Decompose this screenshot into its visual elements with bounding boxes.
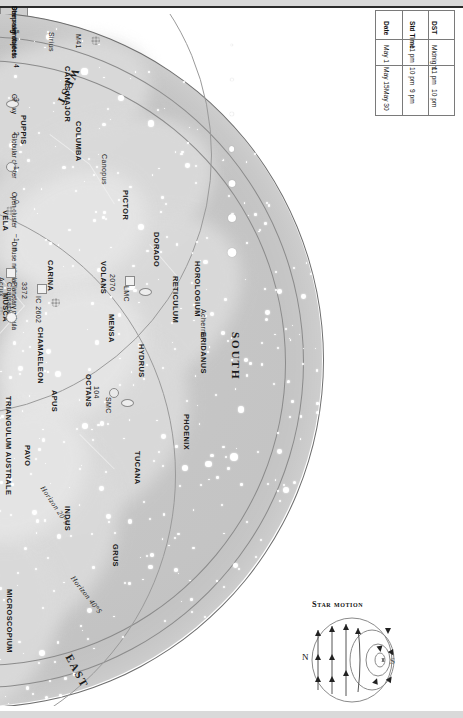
star <box>119 384 121 386</box>
deep-sky-object-label: SMC <box>105 397 112 414</box>
star <box>56 28 57 29</box>
star <box>108 521 109 522</box>
star <box>81 68 87 74</box>
star-motion-diagram: Star motion N S <box>300 600 400 712</box>
time-table-cell: 11 pm <box>431 67 438 85</box>
time-table-divider <box>376 65 454 66</box>
constellation-label: DORADO <box>152 232 161 267</box>
star <box>291 400 294 403</box>
magnitude-value: −1 <box>13 234 20 242</box>
star <box>191 611 193 613</box>
magnitude-dot <box>229 146 235 152</box>
star <box>277 490 279 492</box>
galaxy-object-icon <box>121 399 134 407</box>
star <box>158 451 160 453</box>
constellation-label: COLUMBA <box>74 121 83 162</box>
star <box>277 449 282 454</box>
star <box>49 242 52 245</box>
star <box>18 366 23 371</box>
star <box>44 47 45 48</box>
star <box>189 580 190 581</box>
star <box>244 358 248 362</box>
constellation-label: TRIANGULUM AUSTRALE <box>4 396 13 495</box>
star <box>274 334 275 335</box>
open-cluster-icon <box>6 206 15 215</box>
star <box>39 650 45 656</box>
star <box>55 371 61 377</box>
star <box>246 374 249 377</box>
time-table-cell: May 30 <box>383 89 390 111</box>
star <box>277 347 279 349</box>
constellation-label: CHAMAELEON <box>36 327 45 384</box>
star <box>206 237 208 239</box>
star <box>176 243 179 246</box>
star <box>92 439 94 441</box>
star <box>41 188 42 189</box>
time-table-cell: May 15 <box>383 67 390 89</box>
star <box>92 566 95 569</box>
time-table-header: Date <box>383 21 390 35</box>
star <box>19 373 21 375</box>
magnitude-value: 0 <box>13 200 20 204</box>
magnitude-dot <box>228 180 235 187</box>
star <box>192 547 195 550</box>
star <box>106 514 111 519</box>
star <box>42 607 44 609</box>
star <box>236 448 237 449</box>
star <box>32 693 34 695</box>
time-table-cell: May 1 <box>383 45 390 63</box>
constellation-label: OCTANS <box>84 374 93 407</box>
star <box>277 289 282 294</box>
constellation-label: CARINA <box>46 260 55 291</box>
star <box>223 533 224 534</box>
star <box>238 568 239 569</box>
star <box>162 538 163 539</box>
star <box>59 694 62 697</box>
star-name-label: Canopus <box>101 154 108 185</box>
star <box>98 154 99 155</box>
star <box>300 415 303 418</box>
star <box>193 320 194 321</box>
star <box>203 260 208 265</box>
star <box>289 416 290 417</box>
time-table-cell: 10 pm <box>431 89 438 107</box>
star <box>264 288 265 289</box>
star <box>289 338 290 339</box>
star <box>79 468 81 470</box>
star <box>187 142 188 143</box>
star <box>93 648 94 649</box>
planetary-nebula-icon <box>6 312 17 323</box>
open-object-icon <box>91 36 100 45</box>
star <box>246 242 247 243</box>
star <box>110 119 111 120</box>
star <box>29 395 30 396</box>
star <box>19 38 20 39</box>
star-motion-svg <box>300 606 400 718</box>
star <box>29 346 31 348</box>
star <box>152 174 153 175</box>
star <box>27 159 30 162</box>
star <box>221 504 223 506</box>
constellation-label: PHOENIX <box>182 414 191 450</box>
star <box>32 510 37 515</box>
star <box>227 467 230 470</box>
constellation-label: PUPPIS <box>19 115 28 145</box>
diffuse-object-icon <box>37 284 47 294</box>
star <box>315 348 316 349</box>
star <box>246 521 248 523</box>
star <box>174 537 176 539</box>
star <box>113 616 114 617</box>
dso-legend-label: Planetary nebula <box>11 276 18 336</box>
star <box>14 458 15 459</box>
star <box>161 196 164 199</box>
star <box>36 519 40 523</box>
star <box>133 384 134 385</box>
constellation-label: TUCANA <box>133 451 142 485</box>
star <box>150 553 154 557</box>
star <box>249 362 252 365</box>
deep-sky-object-label: LMC <box>123 286 130 302</box>
star <box>205 461 211 467</box>
star <box>148 71 149 72</box>
magnitude-dot <box>227 248 236 257</box>
constellation-label: RETICULUM <box>171 276 180 323</box>
